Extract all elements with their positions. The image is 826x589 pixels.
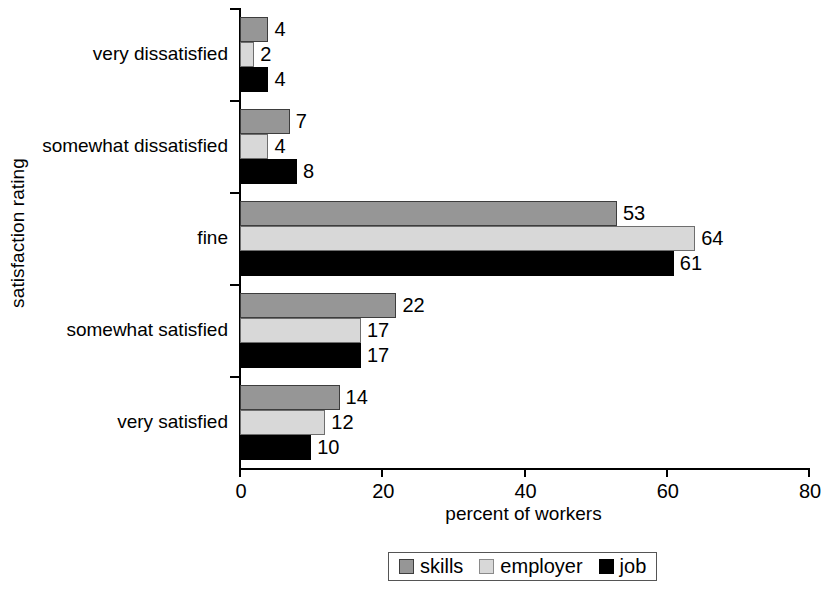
bar-skills-fine	[240, 201, 617, 226]
bar-skills-somewhat-dissatisfied	[240, 109, 290, 134]
bar-value-label: 7	[296, 109, 307, 134]
x-axis-title: percent of workers	[239, 503, 808, 525]
bar-job-very-satisfied	[240, 435, 311, 460]
bar-value-label: 4	[274, 67, 285, 92]
bar-value-label: 8	[303, 159, 314, 184]
bar-value-label: 4	[274, 17, 285, 42]
x-axis-tick	[239, 468, 241, 477]
bar-value-label: 10	[317, 435, 339, 460]
bar-value-label: 17	[367, 343, 389, 368]
y-axis-group-tick	[230, 100, 239, 102]
x-axis-tick-label: 80	[780, 480, 826, 503]
x-axis-tick	[524, 468, 526, 477]
bar-value-label: 2	[260, 42, 271, 67]
y-axis-category-label: somewhat dissatisfied	[40, 135, 228, 157]
bar-employer-somewhat-satisfied	[240, 318, 361, 343]
employer-swatch	[479, 559, 494, 574]
y-axis-category-label: somewhat satisfied	[40, 319, 228, 341]
x-axis-tick-label: 40	[496, 480, 556, 503]
y-axis-group-tick	[230, 192, 239, 194]
skills-swatch	[399, 559, 414, 574]
bar-chart: satisfaction rating very dissatisfiedsom…	[0, 0, 826, 589]
bar-skills-very-dissatisfied	[240, 17, 268, 42]
legend: skillsemployerjob	[388, 552, 657, 581]
y-axis-group-tick	[230, 284, 239, 286]
bar-skills-somewhat-satisfied	[240, 293, 396, 318]
plot-area: 424748536461221717141210020406080	[239, 8, 808, 468]
bar-value-label: 61	[680, 251, 702, 276]
legend-item-label: employer	[500, 556, 582, 576]
y-axis-category-label: very satisfied	[40, 411, 228, 433]
bar-value-label: 14	[346, 385, 368, 410]
bar-employer-somewhat-dissatisfied	[240, 134, 268, 159]
y-axis-group-tick	[230, 376, 239, 378]
legend-item-employer: employer	[479, 556, 582, 576]
y-axis-category-label: fine	[40, 227, 228, 249]
x-axis-tick-label: 20	[353, 480, 413, 503]
y-axis-group-tick	[230, 8, 239, 10]
x-axis-tick	[808, 468, 810, 477]
bar-value-label: 22	[402, 293, 424, 318]
x-axis-tick	[666, 468, 668, 477]
bar-employer-very-satisfied	[240, 410, 325, 435]
bar-value-label: 64	[701, 226, 723, 251]
legend-item-job: job	[599, 556, 647, 576]
bar-value-label: 4	[274, 134, 285, 159]
bar-value-label: 17	[367, 318, 389, 343]
bar-job-somewhat-satisfied	[240, 343, 361, 368]
legend-item-label: job	[620, 556, 647, 576]
y-axis-category-label: very dissatisfied	[40, 43, 228, 65]
bar-job-somewhat-dissatisfied	[240, 159, 297, 184]
bar-employer-fine	[240, 226, 695, 251]
bar-job-fine	[240, 251, 674, 276]
legend-item-skills: skills	[399, 556, 463, 576]
y-axis-category-labels: very dissatisfiedsomewhat dissatisfiedfi…	[40, 8, 228, 468]
bar-job-very-dissatisfied	[240, 67, 268, 92]
legend-item-label: skills	[420, 556, 463, 576]
bar-value-label: 12	[331, 410, 353, 435]
bar-value-label: 53	[623, 201, 645, 226]
bar-skills-very-satisfied	[240, 385, 340, 410]
x-axis-tick	[381, 468, 383, 477]
x-axis-tick-label: 0	[211, 480, 271, 503]
job-swatch	[599, 559, 614, 574]
y-axis-title: satisfaction rating	[7, 83, 29, 383]
x-axis-tick-label: 60	[638, 480, 698, 503]
bar-employer-very-dissatisfied	[240, 42, 254, 67]
